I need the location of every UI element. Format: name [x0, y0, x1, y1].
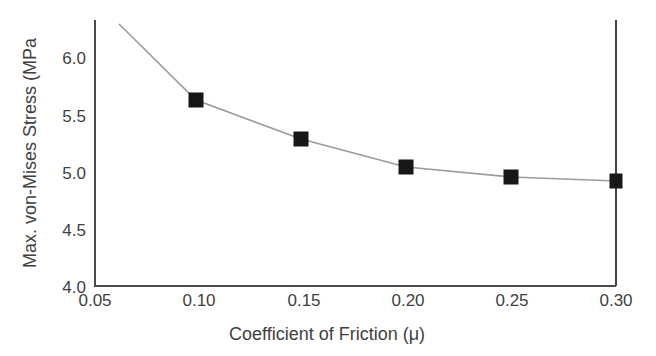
x-tick-label: 0.10	[182, 291, 215, 310]
x-tick-label: 0.20	[391, 291, 424, 310]
data-point-marker	[399, 160, 413, 174]
chart-figure: 6.0 5.5 5.0 4.5 4.0 0.05 0.10 0.15 0.20 …	[0, 0, 656, 356]
line-chart: 6.0 5.5 5.0 4.5 4.0 0.05 0.10 0.15 0.20 …	[0, 0, 656, 356]
y-axis-title: Max. von-Mises Stress (MPa	[20, 37, 40, 268]
y-tick-label: 4.5	[62, 221, 86, 240]
data-point-marker	[189, 93, 203, 107]
data-point-marker	[504, 170, 518, 184]
x-tick-label: 0.25	[495, 291, 528, 310]
x-tick-label: 0.30	[599, 291, 632, 310]
x-axis-title: Coefficient of Friction (μ)	[229, 324, 425, 344]
x-tick-label: 0.15	[287, 291, 320, 310]
x-tick-label: 0.05	[78, 291, 111, 310]
data-point-marker	[294, 132, 308, 146]
data-point-marker	[610, 174, 622, 188]
y-tick-label: 6.0	[62, 49, 86, 68]
y-tick-label: 5.0	[62, 164, 86, 183]
y-tick-label: 5.5	[62, 107, 86, 126]
